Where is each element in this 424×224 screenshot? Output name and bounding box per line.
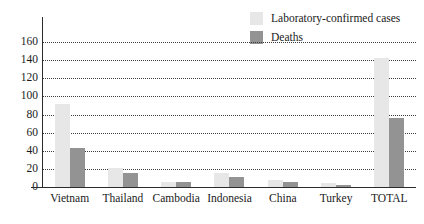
bar-deaths — [389, 118, 404, 187]
x-tick-label: Indonesia — [203, 191, 256, 205]
bar-cases — [55, 104, 70, 187]
bar-group — [96, 42, 149, 187]
y-tick-label: 160 — [4, 36, 38, 48]
x-tick-label: Turkey — [309, 191, 362, 205]
x-tick-label: China — [256, 191, 309, 205]
y-tick-label: 60 — [4, 127, 38, 139]
bar-cases — [214, 173, 229, 187]
x-tick-label: TOTAL — [363, 191, 416, 205]
legend-item-cases: Laboratory-confirmed cases — [250, 9, 400, 27]
x-tick-label: Vietnam — [43, 191, 96, 205]
y-tick-label: 140 — [4, 54, 38, 66]
y-axis-ticks: 020406080100120140160 — [0, 42, 38, 187]
bar-deaths — [336, 185, 351, 187]
bar-cases — [321, 183, 336, 187]
bar-group — [43, 42, 96, 187]
bar-chart: Laboratory-confirmed cases Deaths 020406… — [0, 0, 424, 224]
legend-label-cases: Laboratory-confirmed cases — [271, 12, 400, 25]
bar-cases — [108, 168, 123, 187]
y-tick-label: 40 — [4, 145, 38, 157]
bar-cases — [268, 180, 283, 187]
bar-groups — [43, 42, 416, 187]
bar-cases — [374, 58, 389, 187]
y-tick-label: 80 — [4, 109, 38, 121]
x-axis-line — [31, 187, 416, 188]
bar-deaths — [229, 177, 244, 187]
x-tick-label: Cambodia — [150, 191, 203, 205]
y-tick-label: 100 — [4, 91, 38, 103]
legend-swatch-cases — [250, 12, 263, 25]
bar-deaths — [70, 148, 85, 187]
y-tick-label: 20 — [4, 163, 38, 175]
bar-group — [363, 42, 416, 187]
bar-deaths — [283, 182, 298, 187]
y-tick-label: 120 — [4, 73, 38, 85]
bar-group — [256, 42, 309, 187]
x-axis-labels: VietnamThailandCambodiaIndonesiaChinaTur… — [43, 191, 416, 205]
bar-group — [150, 42, 203, 187]
bar-cases — [161, 182, 176, 187]
x-tick-label: Thailand — [96, 191, 149, 205]
bar-deaths — [176, 182, 191, 187]
bar-group — [203, 42, 256, 187]
bar-deaths — [123, 173, 138, 187]
bar-group — [309, 42, 362, 187]
